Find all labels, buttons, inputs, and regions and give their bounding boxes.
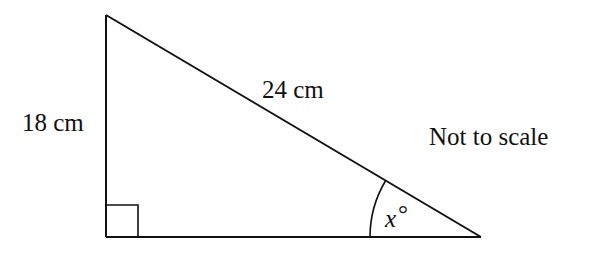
hypotenuse [106,15,481,237]
angle-degree-symbol: ° [398,200,408,227]
diagram-canvas: 18 cm 24 cm Not to scale x ° [0,0,593,253]
triangle-diagram: 18 cm 24 cm Not to scale x ° [0,0,593,253]
right-angle-marker [106,205,138,237]
hypotenuse-label: 24 cm [262,76,324,103]
angle-arc [370,181,385,237]
vertical-side-label: 18 cm [22,109,84,136]
angle-variable-label: x [384,205,396,232]
not-to-scale-note: Not to scale [429,123,548,150]
